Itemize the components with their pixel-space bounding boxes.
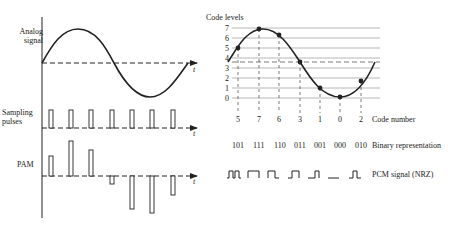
sampling-pulses [49,110,175,128]
pam-pulses [49,141,175,213]
code-level-grid [232,28,380,98]
sample-points [236,27,364,100]
diagram-graphics [0,0,452,226]
sample-dashed-lines [238,29,361,113]
pcm-nrz-waveforms [227,171,361,178]
